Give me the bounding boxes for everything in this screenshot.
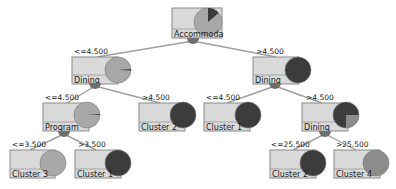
- tree-edge: <=4.500: [45, 86, 95, 103]
- edge-split-label: >4.500: [256, 47, 284, 56]
- tree-node-dining_rr[interactable]: Dining: [302, 102, 359, 137]
- tree-edge: <=3.500: [12, 134, 64, 150]
- tree-node-cluster2_a[interactable]: Cluster 2: [139, 102, 196, 132]
- edge-split-label: >4.500: [306, 93, 334, 102]
- node-label: Dining: [304, 123, 330, 132]
- tree-edge: >4.500: [193, 41, 284, 57]
- edge-split-label: <=4.500: [74, 47, 108, 56]
- decision-tree: <=4.500>4.500<=4.500>4.500<=4.500>4.500<…: [0, 0, 396, 189]
- edge-split-label: >3.500: [78, 140, 106, 149]
- node-label: Cluster 2: [141, 123, 177, 132]
- tree-node-dining_right[interactable]: Dining: [253, 57, 311, 89]
- tree-edge: <=25.500: [271, 134, 325, 150]
- tree-node-cluster2_b[interactable]: Cluster 2: [270, 150, 326, 179]
- tree-node-program[interactable]: Program: [43, 102, 100, 137]
- pie-chart-icon: [105, 57, 131, 83]
- tree-node-cluster1_a[interactable]: Cluster 1: [204, 102, 261, 132]
- decision-tree-canvas: <=4.500>4.500<=4.500>4.500<=4.500>4.500<…: [0, 0, 396, 189]
- edge-split-label: <=25.500: [271, 140, 310, 149]
- edge-split-label: >25.500: [336, 140, 369, 149]
- node-label: Accommoda: [174, 30, 224, 39]
- node-label: Cluster 1: [206, 123, 242, 132]
- pie-chart-icon: [333, 102, 359, 128]
- node-label: Cluster 2: [272, 170, 308, 179]
- expand-toggle-icon[interactable]: [187, 38, 199, 44]
- node-label: Cluster 1: [77, 170, 113, 179]
- tree-edge: >25.500: [325, 134, 369, 150]
- node-label: Cluster 4: [336, 170, 372, 179]
- tree-node-cluster4[interactable]: Cluster 4: [334, 150, 389, 179]
- tree-edge: >4.500: [95, 86, 170, 103]
- edge-split-label: >4.500: [142, 93, 170, 102]
- tree-node-dining_left[interactable]: Dining: [72, 57, 131, 89]
- tree-edge: >4.500: [275, 86, 334, 103]
- edge-split-label: <=4.500: [45, 93, 79, 102]
- edge-split-label: <=3.500: [12, 140, 46, 149]
- tree-edge: <=4.500: [206, 86, 275, 103]
- tree-node-root[interactable]: Accommoda: [172, 8, 224, 44]
- pie-chart-icon: [285, 57, 311, 83]
- tree-edge: <=4.500: [74, 41, 193, 57]
- node-label: Program: [45, 123, 79, 132]
- node-label: Cluster 3: [12, 170, 48, 179]
- tree-node-cluster3[interactable]: Cluster 3: [10, 150, 66, 179]
- tree-edge: >3.500: [64, 134, 106, 150]
- edge-split-label: <=4.500: [206, 93, 240, 102]
- tree-node-cluster1_b[interactable]: Cluster 1: [75, 150, 131, 179]
